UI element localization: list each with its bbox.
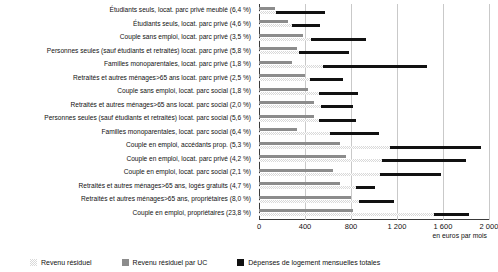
bar-revenu-residuel-par-uc: [259, 34, 303, 37]
bar-revenu-residuel: [259, 92, 319, 95]
bar-revenu-residuel: [259, 146, 390, 149]
bar-group: [259, 99, 489, 113]
bar-depenses-logement: [276, 11, 324, 14]
bar-group: [259, 4, 489, 18]
bar-revenu-residuel: [259, 65, 323, 68]
bar-depenses-logement: [380, 173, 441, 176]
category-label: Couple sans emploi, locat. parc social (…: [117, 87, 251, 94]
legend-label: Dépenses de logement mensuelles totales: [248, 259, 380, 266]
bar-group: [259, 180, 489, 194]
bar-revenu-residuel-par-uc: [259, 169, 333, 172]
bar-revenu-residuel-par-uc: [259, 7, 275, 10]
bar-revenu-residuel: [259, 213, 434, 216]
bar-revenu-residuel-par-uc: [259, 115, 314, 118]
bar-revenu-residuel: [259, 159, 382, 162]
bar-group: [259, 85, 489, 99]
legend-item: Dépenses de logement mensuelles totales: [237, 259, 380, 266]
category-label: Retraités et autres ménages>65 ans locat…: [70, 101, 251, 108]
bar-revenu-residuel: [259, 119, 319, 122]
bar-depenses-logement: [319, 92, 358, 95]
bar-depenses-logement: [390, 146, 481, 149]
bar-revenu-residuel-par-uc: [259, 182, 340, 185]
legend-swatch-dep: [237, 259, 244, 266]
bar-group: [259, 193, 489, 207]
category-label: Personnes seules (sauf étudiants et retr…: [44, 114, 251, 121]
legend-label: Revenu résiduel: [41, 259, 92, 266]
bar-revenu-residuel-par-uc: [259, 20, 288, 23]
bar-revenu-residuel-par-uc: [259, 74, 305, 77]
bar-revenu-residuel: [259, 132, 330, 135]
bar-depenses-logement: [310, 78, 343, 81]
bar-revenu-residuel-par-uc: [259, 128, 297, 131]
category-label: Retraités et autres ménages>65 ans, prop…: [81, 195, 251, 202]
bar-revenu-residuel: [259, 51, 299, 54]
bar-revenu-residuel: [259, 78, 310, 81]
bar-revenu-residuel-par-uc: [259, 47, 297, 50]
category-label: Étudiants seuls, locat. parc privé meubl…: [110, 6, 251, 13]
chart-legend: Revenu résiduelRevenu résiduel par UCDép…: [30, 255, 485, 269]
bar-group: [259, 153, 489, 167]
bar-depenses-logement: [359, 200, 394, 203]
bar-group: [259, 139, 489, 153]
category-label: Retraités et autres ménages>65 ans locat…: [73, 74, 251, 81]
category-label: Familles monoparentales, locat. parc soc…: [101, 128, 251, 135]
category-label: Étudiants seuls, locat. parc privé (4,6 …: [133, 20, 251, 27]
category-axis-labels: Étudiants seuls, locat. parc privé meubl…: [0, 4, 255, 220]
bar-depenses-logement: [321, 105, 353, 108]
x-axis-unit-label: en euros par mois: [433, 232, 487, 239]
bar-depenses-logement: [434, 213, 470, 216]
x-tick-label: 1 200: [388, 222, 407, 231]
category-label: Retraités et autres ménages>65 ans, logé…: [79, 182, 251, 189]
bar-revenu-residuel: [259, 24, 292, 27]
bar-revenu-residuel: [259, 38, 311, 41]
category-label: Couple en emploi, propriétaires (23,8 %): [133, 209, 251, 216]
legend-swatch-uc: [122, 259, 129, 266]
bar-revenu-residuel: [259, 173, 380, 176]
bar-depenses-logement: [330, 132, 378, 135]
legend-label: Revenu résiduel par UC: [133, 259, 208, 266]
bar-revenu-residuel-par-uc: [259, 88, 308, 91]
bar-group: [259, 166, 489, 180]
bar-revenu-residuel-par-uc: [259, 155, 346, 158]
legend-item: Revenu résiduel par UC: [122, 259, 208, 266]
category-label: Couple en emploi, locat. parc social (2,…: [124, 168, 251, 175]
x-tick-label: 2 000: [480, 222, 498, 231]
bar-group: [259, 45, 489, 59]
gridline: [489, 4, 490, 220]
category-label: Familles monoparentales, locat. parc pri…: [104, 60, 251, 67]
bar-group: [259, 207, 489, 221]
bar-revenu-residuel-par-uc: [259, 142, 340, 145]
x-tick-label: 0: [257, 222, 261, 231]
bar-group: [259, 31, 489, 45]
bar-revenu-residuel-par-uc: [259, 209, 353, 212]
bar-revenu-residuel: [259, 200, 359, 203]
legend-swatch-res: [30, 259, 37, 266]
bar-depenses-logement: [299, 51, 348, 54]
bar-group: [259, 112, 489, 126]
bar-group: [259, 58, 489, 72]
bar-revenu-residuel-par-uc: [259, 196, 351, 199]
bar-revenu-residuel-par-uc: [259, 61, 292, 64]
bar-group: [259, 72, 489, 86]
bar-revenu-residuel: [259, 186, 356, 189]
bar-group: [259, 18, 489, 32]
bar-depenses-logement: [382, 159, 466, 162]
bar-revenu-residuel: [259, 105, 321, 108]
x-tick-label: 800: [345, 222, 358, 231]
bar-depenses-logement: [292, 24, 320, 27]
bar-depenses-logement: [356, 186, 376, 189]
bar-group: [259, 126, 489, 140]
category-label: Couple en emploi, locat. parc privé (4,2…: [126, 155, 251, 162]
bar-revenu-residuel: [259, 11, 276, 14]
bar-depenses-logement: [323, 65, 427, 68]
bar-depenses-logement: [319, 119, 356, 122]
plot-area: [259, 4, 489, 220]
category-label: Couple en emploi, accédants prop. (5,3 %…: [126, 141, 251, 148]
x-tick-label: 1 600: [434, 222, 453, 231]
category-label: Couple sans emploi, locat. parc privé (3…: [120, 33, 251, 40]
legend-item: Revenu résiduel: [30, 259, 92, 266]
bar-revenu-residuel-par-uc: [259, 101, 314, 104]
category-label: Personnes seules (sauf étudiants et retr…: [47, 47, 251, 54]
bar-depenses-logement: [311, 38, 366, 41]
